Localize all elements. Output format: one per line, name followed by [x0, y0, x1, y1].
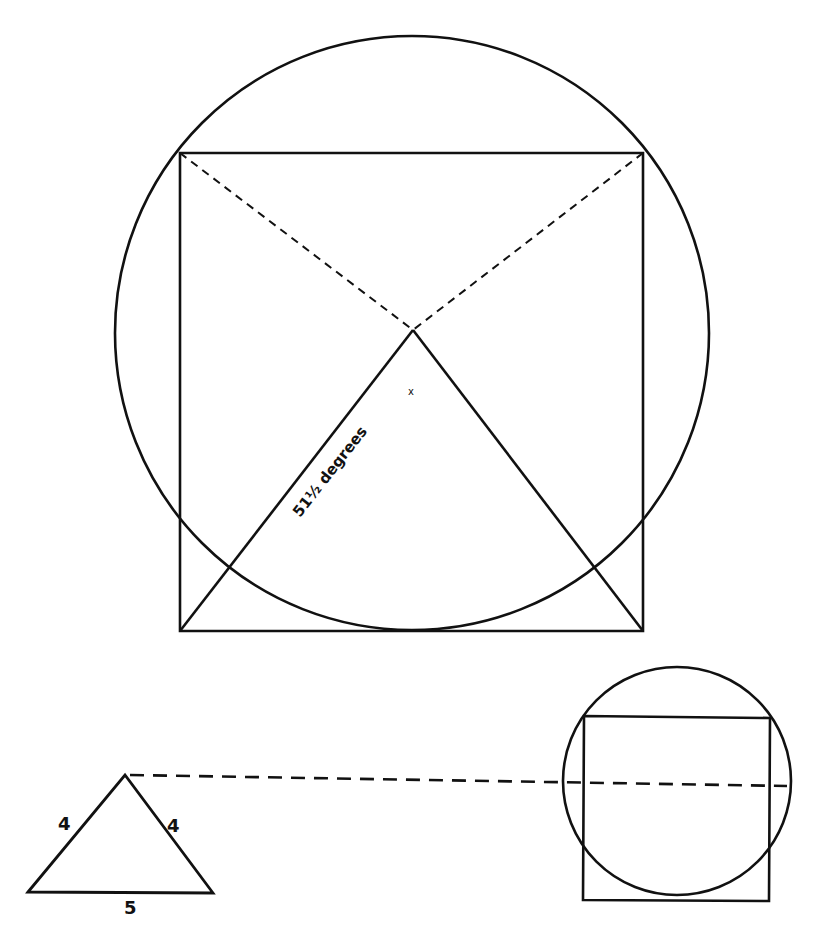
dashed-diagonal-left — [180, 153, 413, 330]
dashed-diagonal-right — [413, 153, 643, 330]
triangle-left-side-label: 4 — [58, 813, 71, 834]
triangle-base-label: 5 — [124, 897, 137, 918]
pyramid-face-right — [413, 330, 643, 631]
height-connector-dashed — [130, 775, 787, 786]
triangle-right-side-label: 4 — [167, 815, 180, 836]
pyramid-face-left — [180, 330, 413, 631]
triangle — [28, 775, 213, 893]
center-mark: x — [408, 386, 414, 397]
pyramid-diagram: x 51½ degrees 4 4 5 — [0, 0, 817, 933]
main-figure — [115, 36, 709, 631]
small-circle — [563, 667, 791, 895]
triangle-figure — [28, 775, 213, 893]
